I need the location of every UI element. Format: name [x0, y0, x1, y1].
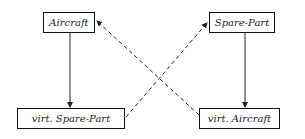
- node-spare-part: Spare-Part: [209, 12, 275, 33]
- node-label: virt. Spare-Part: [32, 113, 110, 124]
- node-label: virt. Aircraft: [208, 113, 271, 124]
- node-aircraft: Aircraft: [43, 12, 95, 33]
- node-label: Aircraft: [49, 17, 88, 28]
- node-label: Spare-Part: [215, 17, 269, 28]
- edge-virt-aircraft-to-aircraft: [97, 21, 199, 115]
- node-virt-spare-part: virt. Spare-Part: [17, 108, 125, 129]
- edge-virt-spare-part-to-spare-part: [126, 23, 207, 117]
- node-virt-aircraft: virt. Aircraft: [199, 108, 280, 129]
